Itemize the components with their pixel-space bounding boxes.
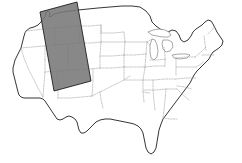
us-map-svg (0, 0, 242, 163)
state-border-ga-fl (163, 118, 177, 119)
map-figure (0, 0, 242, 163)
